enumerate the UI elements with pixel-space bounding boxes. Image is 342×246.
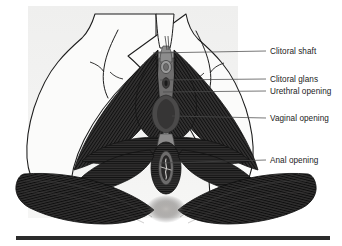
- label-clitoral-shaft: Clitoral shaft: [270, 47, 316, 56]
- label-anal-opening: Anal opening: [270, 156, 318, 165]
- label-clitoral-glans: Clitoral glans: [270, 75, 318, 84]
- label-urethral-opening: Urethral opening: [270, 87, 331, 96]
- label-layer: Clitoral shaftClitoral glansUrethral ope…: [0, 0, 342, 246]
- label-vaginal-opening: Vaginal opening: [270, 114, 329, 123]
